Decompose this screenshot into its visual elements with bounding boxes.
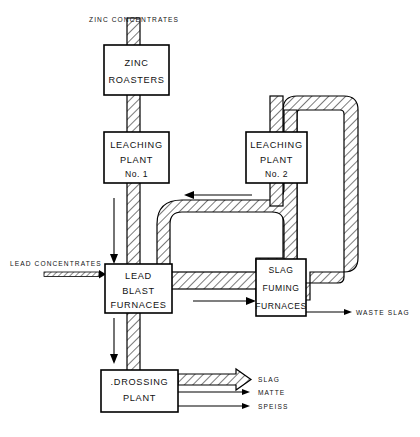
pipe-leaching1-to-blast bbox=[127, 182, 140, 266]
leaching-plant-2-label-line-3: No. 2 bbox=[265, 169, 288, 179]
pipe-roasters-to-leaching1 bbox=[127, 93, 140, 133]
leaching-plant-2-label-line-2: PLANT bbox=[260, 155, 293, 165]
leaching-plant-1-label-line-2: PLANT bbox=[120, 155, 153, 165]
unit-leaching-plant-1[interactable]: LEACHING PLANT No. 1 bbox=[104, 132, 169, 183]
zinc-roasters-box[interactable] bbox=[104, 45, 169, 95]
slag-fuming-furnaces-label-line-3: FURNACES bbox=[255, 301, 306, 311]
pipe-blast-to-slagfuming bbox=[170, 272, 258, 289]
leaching-plant-1-label-line-3: No. 1 bbox=[125, 169, 148, 179]
unit-zinc-roasters[interactable]: ZINC ROASTERS bbox=[104, 45, 169, 95]
flowsheet-svg: ZINC ROASTERS LEACHING PLANT No. 1 LEACH… bbox=[0, 0, 420, 437]
unit-leaching-plant-2[interactable]: LEACHING PLANT No. 2 bbox=[246, 132, 307, 183]
leaching-plant-2-label-line-1: LEACHING bbox=[250, 140, 303, 150]
slag-fuming-furnaces-label-line-1: SLAG bbox=[269, 265, 294, 275]
stream-label-slag: SLAG bbox=[258, 376, 280, 383]
drossing-plant-label-line-1: .DROSSING bbox=[111, 377, 169, 387]
leaching-plant-1-label-line-1: LEACHING bbox=[110, 140, 163, 150]
lead-blast-furnaces-label-line-2: BLAST bbox=[122, 286, 155, 296]
drossing-plant-box[interactable] bbox=[101, 370, 178, 412]
unit-lead-blast-furnaces[interactable]: LEAD BLAST FURNACES bbox=[105, 264, 172, 313]
unit-slag-fuming-furnaces[interactable]: SLAG FUMING FURNACES bbox=[255, 259, 306, 316]
process-flow-diagram: ZINC ROASTERS LEACHING PLANT No. 1 LEACH… bbox=[0, 0, 420, 437]
stream-label-zinc-concentrates: ZINC CONCENTRATES bbox=[89, 16, 179, 23]
stream-label-matte: MATTE bbox=[258, 389, 285, 396]
lead-blast-furnaces-label-line-3: FURNACES bbox=[110, 300, 166, 310]
stream-label-speiss: SPEISS bbox=[258, 403, 288, 410]
unit-drossing-plant[interactable]: .DROSSING PLANT bbox=[101, 370, 178, 412]
stream-label-waste-slag: WASTE SLAG bbox=[356, 309, 410, 316]
zinc-roasters-label-line-2: ROASTERS bbox=[108, 75, 164, 85]
pipe-loop-to-leaching2 bbox=[270, 96, 283, 133]
zinc-roasters-label-line-1: ZINC bbox=[124, 58, 148, 68]
pipe-leaching2-down bbox=[270, 182, 283, 206]
drossing-plant-label-line-2: PLANT bbox=[123, 393, 156, 403]
stream-label-lead-concentrates: LEAD CONCENTRATES bbox=[10, 260, 102, 267]
lead-blast-furnaces-label-line-1: LEAD bbox=[125, 271, 152, 281]
pipe-blast-to-drossing bbox=[127, 311, 140, 372]
slag-fuming-furnaces-label-line-2: FUMING bbox=[263, 283, 300, 293]
